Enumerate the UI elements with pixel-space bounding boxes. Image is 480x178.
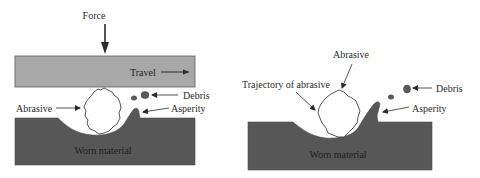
worn-material-label: Worn material [74, 145, 131, 156]
abrasive-wear-diagram: Force Travel Worn material Abrasive Debr… [0, 0, 480, 178]
travel-label: Travel [130, 67, 156, 78]
worn-material-label-right: Worn material [309, 149, 366, 160]
debris-particle-large [141, 92, 149, 99]
abrasive-leader-arrow-icon-right [342, 64, 352, 88]
asperity-label-right: Asperity [412, 103, 446, 114]
trajectory-leader-arrow-icon [296, 92, 315, 110]
right-panel: Abrasive Trajectory of abrasive Worn mat… [242, 49, 463, 170]
abrasive-particle-right [318, 90, 360, 137]
abrasive-particle [84, 88, 121, 134]
asperity-leader-arrow-icon-right [383, 107, 409, 112]
trajectory-label: Trajectory of abrasive [242, 79, 330, 90]
debris-particle-small-right [388, 95, 394, 100]
force-arrow-icon [101, 24, 109, 54]
force-label: Force [83, 10, 106, 21]
asperity-label: Asperity [171, 103, 205, 114]
abrasive-label: Abrasive [16, 103, 53, 114]
debris-label-right: Debris [436, 83, 463, 94]
left-panel: Force Travel Worn material Abrasive Debr… [15, 10, 210, 165]
debris-particle-small [131, 96, 137, 101]
abrasive-label-right: Abrasive [333, 49, 370, 60]
debris-label: Debris [183, 90, 210, 101]
debris-particle-large-right [404, 85, 411, 93]
asperity-leader-arrow-icon [143, 108, 169, 112]
